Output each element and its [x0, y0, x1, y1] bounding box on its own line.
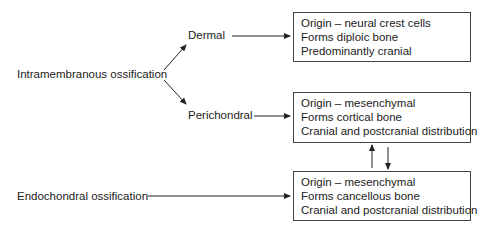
box-line: Origin – neural crest cells — [301, 16, 470, 30]
box-line: Origin – mesenchymal — [301, 96, 470, 110]
box-line: Forms cortical bone — [301, 110, 470, 124]
box-line: Forms cancellous bone — [301, 189, 470, 203]
dermal-properties-box: Origin – neural crest cells Forms diploi… — [293, 12, 471, 62]
endochondral-label: Endochondral ossification — [17, 190, 148, 203]
arrow-to-dermal — [164, 45, 186, 70]
box-line: Cranial and postcranial distribution — [301, 203, 470, 217]
endochondral-properties-box: Origin – mesenchymal Forms cancellous bo… — [293, 171, 471, 221]
box-line: Forms diploic bone — [301, 30, 470, 44]
dermal-label: Dermal — [188, 29, 225, 42]
arrow-to-perichondral — [164, 80, 186, 104]
box-line: Origin – mesenchymal — [301, 175, 470, 189]
perichondral-label: Perichondral — [188, 109, 253, 122]
intramembranous-label: Intramembranous ossification — [17, 68, 167, 81]
box-line: Predominantly cranial — [301, 44, 470, 58]
box-line: Cranial and postcranial distribution — [301, 124, 470, 138]
perichondral-properties-box: Origin – mesenchymal Forms cortical bone… — [293, 92, 471, 143]
